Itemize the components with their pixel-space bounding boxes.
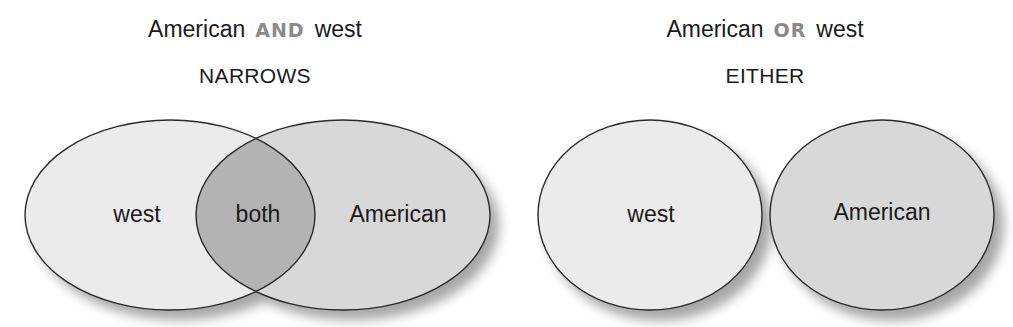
and-american-label: American xyxy=(349,201,446,227)
and-west-label: west xyxy=(112,201,161,227)
and-venn: west both American xyxy=(25,120,490,310)
or-american-label: American xyxy=(833,199,930,225)
or-west-label: west xyxy=(626,201,675,227)
and-both-label: both xyxy=(236,201,281,227)
venn-diagrams: west both American west American xyxy=(0,0,1013,327)
or-venn: west American xyxy=(538,120,994,310)
